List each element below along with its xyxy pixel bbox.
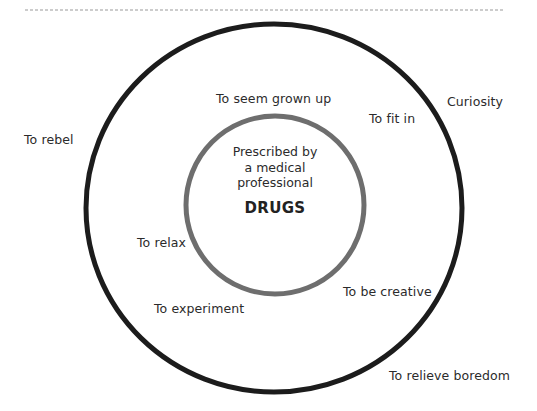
center-subtitle: Prescribed by a medical professional: [205, 144, 345, 191]
reason-seem-grown-up: To seem grown up: [216, 93, 331, 106]
reason-be-creative: To be creative: [343, 286, 432, 299]
center-subtitle-line-3: professional: [205, 175, 345, 191]
reason-fit-in: To fit in: [369, 113, 415, 126]
center-title: DRUGS: [205, 201, 345, 216]
center-subtitle-line-2: a medical: [205, 160, 345, 176]
reason-experiment: To experiment: [154, 303, 244, 316]
reason-relax: To relax: [137, 237, 186, 250]
reason-relieve-boredom: To relieve boredom: [389, 370, 510, 383]
reason-rebel: To rebel: [24, 134, 74, 147]
reason-curiosity: Curiosity: [447, 96, 503, 109]
center-subtitle-line-1: Prescribed by: [205, 144, 345, 160]
